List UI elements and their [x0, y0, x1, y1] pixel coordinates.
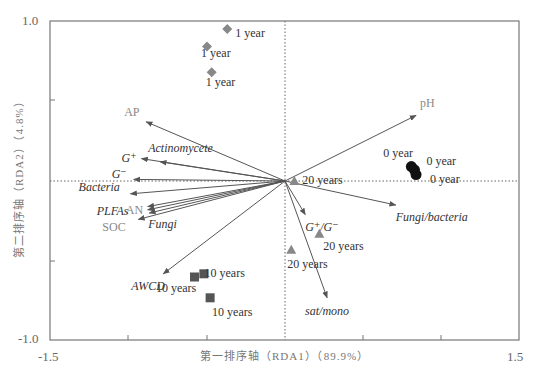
y-min-label: -1.0 — [18, 331, 39, 347]
x-min-label: -1.5 — [38, 349, 59, 365]
vector-label-sat-mono: sat/mono — [305, 304, 349, 318]
sample-label-10-years: 10 years — [205, 266, 246, 280]
vector-label-ap: AP — [124, 105, 140, 119]
sample-point-20-years — [289, 176, 299, 185]
vector-sat-mono — [285, 181, 327, 298]
sample-label-0-year: 0 year — [430, 172, 460, 186]
sample-label-10-years: 10 years — [212, 305, 253, 319]
vector-label-fungi: Fungi — [147, 217, 177, 231]
vector-actinomycete — [160, 162, 285, 181]
sample-label-20-years: 20 years — [287, 257, 328, 271]
sample-label-0-year: 0 year — [426, 154, 456, 168]
sample-label-1-year: 1 year — [206, 75, 236, 89]
vector-label-fungi-bacteria: Fungi/bacteria — [395, 210, 468, 224]
sample-point-20-years — [286, 245, 296, 254]
vector-label-g-g: G⁺/G⁻ — [305, 220, 338, 234]
sample-label-1-year: 1 year — [235, 26, 265, 40]
sample-label-1-year: 1 year — [201, 46, 231, 60]
vector-plfas — [148, 181, 285, 207]
sample-label-20-years: 20 years — [323, 239, 364, 253]
vector-label-bacteria: Bacteria — [79, 180, 120, 194]
vector-label-soc: SOC — [102, 220, 125, 234]
vector-label-plfas: PLFAs — [96, 204, 129, 218]
y-axis-title: 第二排序轴（RDA2）（4.8%） — [10, 98, 26, 258]
sample-point-10-years — [206, 293, 215, 302]
sample-label-0-year: 0 year — [383, 146, 413, 160]
vector-label-g: G⁺ — [121, 151, 136, 165]
x-axis-title: 第一排序轴（RDA1）（89.9%） — [200, 347, 369, 363]
sample-point-1-year — [222, 24, 232, 34]
vector-label-ph: pH — [420, 96, 435, 110]
sample-label-20-years: 20 years — [302, 173, 343, 187]
vector-label-actinomycete: Actinomycete — [147, 141, 213, 155]
sample-label-10-years: 10 years — [156, 281, 197, 295]
vector-labels: APpHANSOCG⁺ActinomyceteG⁻BacteriaPLFAsFu… — [79, 96, 468, 317]
y-max-label: 1.0 — [22, 13, 38, 29]
sample-point-0-year — [411, 169, 422, 180]
x-max-label: 1.5 — [507, 349, 523, 365]
rda-biplot: APpHANSOCG⁺ActinomyceteG⁻BacteriaPLFAsFu… — [0, 0, 535, 379]
